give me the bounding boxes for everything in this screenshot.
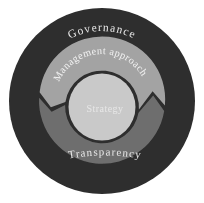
- rings-diagram: Governance Management approach Transpare…: [0, 0, 204, 203]
- strategy-label: Strategy: [87, 103, 124, 114]
- figure-canvas: Governance Management approach Transpare…: [0, 0, 204, 203]
